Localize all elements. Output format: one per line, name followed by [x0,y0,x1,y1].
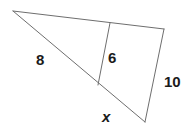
geometry-drawing [0,0,188,134]
geometry-figure: 8 6 10 x [0,0,188,134]
label-side-8: 8 [36,52,44,67]
long-left-edge-line [13,11,145,122]
top-edge-line [13,11,164,29]
label-side-10: 10 [164,74,181,89]
label-side-x: x [102,109,110,124]
label-segment-6: 6 [108,50,116,65]
right-edge-line [145,29,164,122]
